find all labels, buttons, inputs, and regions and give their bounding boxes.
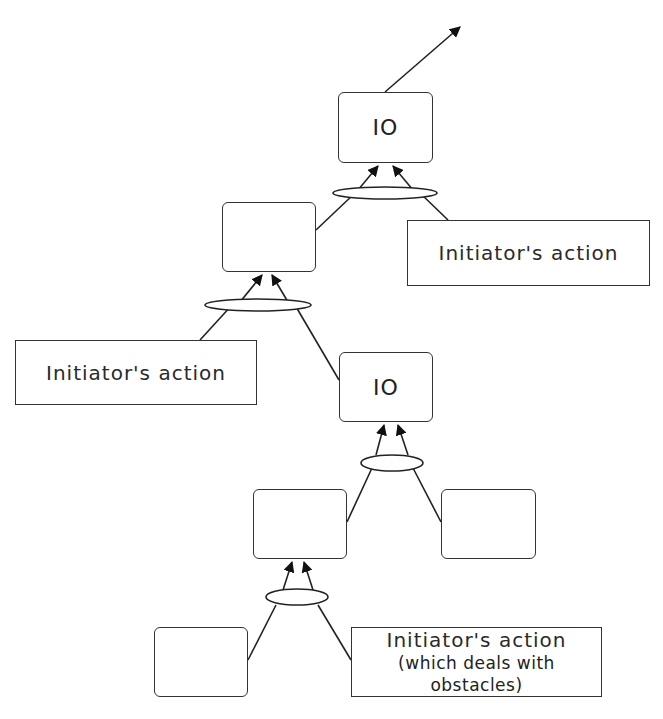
arrow-into-midleft-left bbox=[240, 275, 262, 302]
lower-right-goal-node bbox=[441, 489, 536, 559]
and-ellipse-3 bbox=[361, 455, 423, 471]
left-action-node: Initiator's action bbox=[15, 340, 257, 405]
mid-io-label: IO bbox=[373, 375, 399, 400]
left-action-label: Initiator's action bbox=[46, 361, 226, 385]
bottom-action-label: Initiator's action bbox=[387, 628, 567, 653]
arrow-into-lowerleft-left bbox=[283, 562, 292, 590]
and-ellipse-4 bbox=[266, 589, 328, 605]
top-action-node: Initiator's action bbox=[407, 220, 650, 286]
top-io-node: IO bbox=[338, 92, 433, 163]
bottom-action-sublabel: (which deals with obstacles) bbox=[352, 653, 601, 696]
arrow-into-lowerleft-right bbox=[304, 562, 313, 590]
arrow-into-mid-io-left bbox=[376, 425, 384, 455]
output-arrow bbox=[385, 27, 460, 92]
and-ellipse-1 bbox=[333, 187, 437, 199]
mid-left-goal-node bbox=[222, 202, 316, 272]
arrow-into-mid-io-right bbox=[398, 425, 408, 455]
arrow-into-midleft-right bbox=[272, 275, 288, 302]
lower-left-goal-node bbox=[253, 489, 347, 559]
mid-io-node: IO bbox=[339, 352, 433, 422]
and-ellipse-2 bbox=[205, 299, 311, 311]
top-action-label: Initiator's action bbox=[439, 241, 619, 265]
top-io-label: IO bbox=[373, 115, 399, 140]
bottom-action-node: Initiator's action (which deals with obs… bbox=[351, 627, 602, 697]
bottom-left-goal-node bbox=[154, 627, 248, 697]
